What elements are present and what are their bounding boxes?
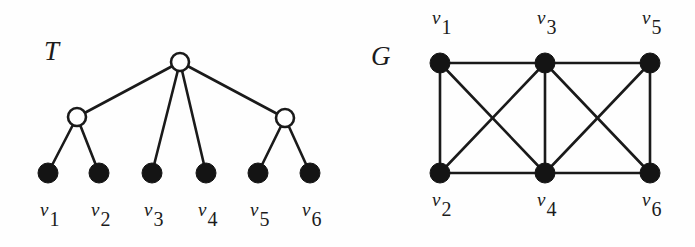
tree-node-leaf-v4 [196,163,216,183]
tree-node-leaf-v2 [89,163,109,183]
tree-label-v1: v1 [40,200,58,220]
tree-leaf-nodes-group [38,163,320,183]
figure-container: T G v1v2v3v4v5v6 v1v3v5v2v4v6 [0,0,695,247]
tree-label-v3: v3 [144,200,162,220]
tree-vertex-symbol: v [250,199,258,220]
graph-name-label: G [371,43,391,70]
graph-node-g-v4 [535,163,555,183]
graph-vertex-symbol: v [642,7,650,28]
tree-edge-root-leaf-v4 [180,62,206,173]
tree-node-internal-right [276,109,294,127]
graph-label-v2: v2 [432,190,450,210]
graph-label-v1: v1 [432,8,450,28]
graph-vertex-symbol: v [432,189,440,210]
tree-vertex-symbol: v [40,199,48,220]
graph-vertex-symbol: v [642,189,650,210]
tree-node-internal-left [68,108,86,126]
tree-node-leaf-v1 [38,163,58,183]
tree-name-label: T [44,38,59,65]
tree-vertex-symbol: v [302,199,310,220]
tree-edge-root-internal-left [77,62,180,117]
graph-edges-group [440,63,650,173]
graph-vertex-subscript: 4 [546,198,556,220]
graph-label-v6: v6 [642,190,660,210]
tree-label-v5: v5 [250,200,268,220]
tree-label-v2: v2 [91,200,109,220]
graph-node-g-v2 [430,163,450,183]
graph-vertex-subscript: 6 [651,198,661,220]
graph-node-g-v1 [430,53,450,73]
graph-node-g-v5 [640,53,660,73]
graph-vertex-subscript: 2 [441,198,451,220]
graph-vertex-symbol: v [537,7,545,28]
graph-vertex-subscript: 3 [546,16,556,38]
tree-edge-root-leaf-v3 [152,62,180,173]
tree-vertex-subscript: 3 [153,208,163,230]
tree-vertex-subscript: 4 [207,208,217,230]
tree-edge-root-internal-right [180,62,285,118]
graph-node-g-v6 [640,163,660,183]
tree-vertex-symbol: v [91,199,99,220]
tree-label-v6: v6 [302,200,320,220]
tree-vertex-subscript: 5 [259,208,269,230]
tree-vertex-symbol: v [144,199,152,220]
tree-vertex-subscript: 6 [311,208,321,230]
graph-label-v5: v5 [642,8,660,28]
graph-node-g-v3 [535,53,555,73]
graph-vertex-symbol: v [432,7,440,28]
graph-label-v3: v3 [537,8,555,28]
tree-node-leaf-v6 [300,163,320,183]
tree-label-v4: v4 [198,200,216,220]
graph-vertex-subscript: 1 [441,16,451,38]
graph-label-v4: v4 [537,190,555,210]
tree-edges-group [48,62,310,173]
tree-node-leaf-v5 [248,163,268,183]
graph-vertex-symbol: v [537,189,545,210]
tree-vertex-subscript: 2 [100,208,110,230]
tree-nodes-group [68,53,294,127]
tree-node-leaf-v3 [142,163,162,183]
tree-node-root [171,53,189,71]
graph-vertex-subscript: 5 [651,16,661,38]
tree-vertex-symbol: v [198,199,206,220]
tree-vertex-subscript: 1 [49,208,59,230]
